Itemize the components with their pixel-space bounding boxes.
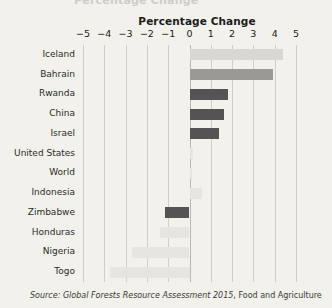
clipped-title-remnant: Percentage Change (74, 0, 199, 7)
bar-honduras (160, 227, 190, 238)
x-tick-label: −1 (161, 28, 175, 39)
category-label-bahrain: Bahrain (40, 69, 75, 79)
x-tick-label: 3 (250, 28, 256, 39)
category-label-united-states: United States (14, 148, 75, 158)
source-rest: , Food and Agriculture (233, 291, 321, 300)
category-label-nigeria: Nigeria (43, 246, 75, 256)
bar-rwanda (190, 89, 228, 100)
category-label-china: China (49, 108, 75, 118)
gridline-1 (211, 45, 212, 282)
plot-area: −5−4−3−2−1012345IcelandBahrainRwandaChin… (83, 45, 296, 282)
x-tick-label: −4 (97, 28, 111, 39)
x-tick-label: 2 (229, 28, 235, 39)
category-label-israel: Israel (50, 128, 75, 138)
gridline-2 (232, 45, 233, 282)
source-label: Source: (30, 291, 60, 300)
chart-title: Percentage Change (62, 15, 332, 27)
x-tick-label: 1 (208, 28, 214, 39)
gridline--5 (83, 45, 84, 282)
gridline-0 (190, 45, 191, 282)
x-tick-label: −2 (140, 28, 154, 39)
category-label-honduras: Honduras (32, 227, 75, 237)
x-tick-label: 5 (293, 28, 299, 39)
bar-israel (190, 128, 220, 139)
source-title: Global Forests Resource Assessment 2015 (63, 291, 233, 300)
bar-world (190, 168, 192, 179)
bar-bahrain (190, 69, 273, 80)
percentage-change-bar-chart: Percentage Change Percentage Change −5−4… (0, 0, 332, 308)
bar-iceland (190, 49, 284, 60)
gridline--4 (104, 45, 105, 282)
bar-togo (110, 267, 190, 278)
category-label-indonesia: Indonesia (31, 187, 75, 197)
gridline--3 (126, 45, 127, 282)
source-note: Source: Global Forests Resource Assessme… (30, 291, 322, 300)
category-label-rwanda: Rwanda (39, 88, 75, 98)
bar-china (190, 109, 224, 120)
gridline-4 (275, 45, 276, 282)
gridline-3 (253, 45, 254, 282)
category-label-togo: Togo (54, 266, 75, 276)
x-tick-label: −3 (119, 28, 133, 39)
bar-indonesia (190, 188, 203, 199)
x-tick-label: 0 (186, 28, 192, 39)
category-label-iceland: Iceland (42, 49, 75, 59)
bar-united-states (190, 148, 193, 159)
bar-zimbabwe (165, 207, 189, 218)
gridline-5 (296, 45, 297, 282)
category-label-zimbabwe: Zimbabwe (28, 207, 75, 217)
category-label-world: World (49, 167, 75, 177)
x-tick-label: 4 (272, 28, 278, 39)
bar-nigeria (132, 247, 190, 258)
x-tick-label: −5 (76, 28, 90, 39)
